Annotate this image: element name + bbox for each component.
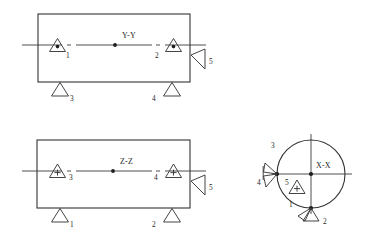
xx-edge-marker-1-label: 1 (289, 200, 293, 209)
xx-edge-marker-3: 3 (264, 141, 278, 174)
diagram-canvas: Y-Y 1 2 5 3 (0, 0, 368, 234)
zz-support-2-label: 2 (152, 220, 156, 229)
yy-marker-1: 1 (50, 39, 71, 61)
yy-marker-1-label: 1 (66, 51, 70, 60)
zz-marker-3: 3 (50, 164, 74, 182)
yy-marker-2: 2 (155, 39, 182, 61)
wedge-arrow-left-icon (191, 175, 205, 195)
yy-marker-1-dot (56, 45, 60, 49)
xx-center-node-dot (309, 172, 313, 176)
yy-support-3: 3 (52, 83, 75, 104)
zz-marker-4-label: 4 (154, 173, 158, 182)
zz-support-2: 2 (152, 209, 181, 230)
zz-edge-marker-5: 5 (191, 175, 213, 195)
yy-support-3-label: 3 (70, 94, 74, 103)
yy-edge-marker-5: 5 (191, 49, 213, 69)
xx-edge-marker-2-label: 2 (323, 217, 327, 226)
yy-marker-2-label: 2 (155, 51, 159, 60)
wedge-arrow-left-icon (191, 49, 205, 69)
wedge-upper-left-icon (264, 163, 278, 174)
triangle-support-icon (52, 209, 69, 223)
xx-edge-marker-4: 4 (257, 174, 277, 187)
yy-marker-2-dot (172, 45, 176, 49)
view-zz: Z-Z 3 4 5 1 (22, 140, 213, 229)
view-yy: Y-Y 1 2 5 3 (22, 14, 213, 103)
zz-marker-3-label: 3 (69, 173, 73, 182)
yy-center-node-dot (113, 43, 117, 47)
zz-support-1-label: 1 (70, 220, 74, 229)
xx-section-label: X-X (316, 161, 331, 170)
zz-support-1: 1 (52, 209, 75, 230)
yy-edge-marker-5-label: 5 (209, 57, 213, 66)
xx-marker-5: 5 (285, 178, 305, 194)
triangle-support-icon (52, 83, 69, 97)
zz-marker-4: 4 (154, 164, 182, 182)
xx-edge-marker-1: 1 (289, 200, 311, 221)
xx-edge-marker-4-label: 4 (257, 178, 261, 187)
zz-edge-marker-5-label: 5 (209, 183, 213, 192)
triangle-support-icon (164, 83, 181, 97)
yy-support-4: 4 (152, 83, 181, 104)
yy-support-4-label: 4 (152, 94, 156, 103)
triangle-support-icon (164, 209, 181, 223)
zz-marker-4-plus (170, 170, 176, 176)
xx-marker-5-plus (294, 186, 300, 192)
wedge-lower-left-icon (264, 174, 278, 187)
yy-section-label: Y-Y (122, 31, 136, 40)
xx-edge-marker-3-label: 3 (271, 141, 275, 150)
view-xx: X-X 3 4 1 2 (257, 134, 352, 226)
zz-marker-3-plus (54, 170, 60, 176)
zz-section-label: Z-Z (120, 157, 133, 166)
xx-marker-5-label: 5 (285, 178, 289, 187)
zz-center-node-dot (111, 169, 115, 173)
